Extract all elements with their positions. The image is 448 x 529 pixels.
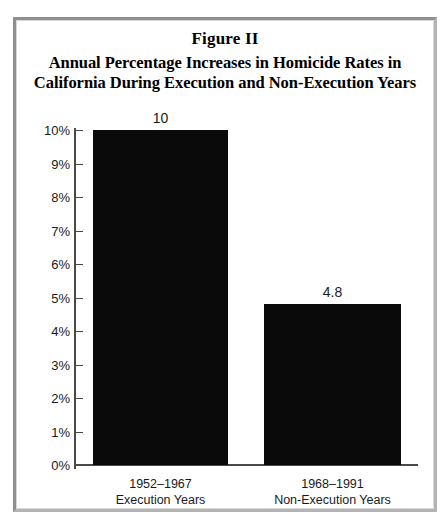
- y-tick-label-9: 9%: [16, 158, 70, 171]
- y-tick-mark-7: [76, 231, 83, 232]
- y-tick-label-8: 8%: [16, 191, 70, 204]
- category-label-non-execution-years: 1968–1991 Non-Execution Years: [249, 476, 416, 508]
- y-tick-label-10: 10%: [16, 124, 70, 137]
- y-tick-mark-8: [76, 197, 83, 198]
- figure-frame: Figure II Annual Percentage Increases in…: [13, 17, 437, 512]
- y-tick-label-4: 4%: [16, 325, 70, 338]
- y-tick-label-2: 2%: [16, 392, 70, 405]
- y-tick-label-0: 0%: [16, 459, 70, 472]
- y-tick-mark-1: [76, 432, 83, 433]
- y-tick-mark-4: [76, 331, 83, 332]
- y-tick-mark-3: [76, 365, 83, 366]
- category-label-execution-years: 1952–1967 Execution Years: [78, 476, 243, 508]
- y-tick-label-6: 6%: [16, 258, 70, 271]
- y-tick-mark-6: [76, 264, 83, 265]
- bar-execution-years[interactable]: [93, 130, 228, 465]
- bar-non-execution-years[interactable]: [264, 304, 401, 465]
- bar-chart-plot-area: 0% 1% 2% 3% 4% 5% 6% 7% 8% 9% 10% 10 4.8…: [16, 20, 434, 509]
- bar-value-label-non-execution-years: 4.8: [264, 285, 401, 299]
- category-description-non-execution-years: Non-Execution Years: [249, 492, 416, 508]
- y-tick-label-3: 3%: [16, 359, 70, 372]
- category-period-non-execution-years: 1968–1991: [249, 476, 416, 492]
- bar-value-label-execution-years: 10: [93, 111, 228, 125]
- category-period-execution-years: 1952–1967: [78, 476, 243, 492]
- category-description-execution-years: Execution Years: [78, 492, 243, 508]
- y-tick-mark-9: [76, 164, 83, 165]
- y-tick-label-7: 7%: [16, 225, 70, 238]
- y-tick-mark-2: [76, 398, 83, 399]
- y-tick-mark-5: [76, 298, 83, 299]
- y-tick-label-1: 1%: [16, 426, 70, 439]
- y-tick-mark-10: [76, 130, 83, 131]
- y-axis-line: [74, 128, 76, 469]
- y-tick-mark-0: [76, 465, 83, 466]
- y-tick-label-5: 5%: [16, 292, 70, 305]
